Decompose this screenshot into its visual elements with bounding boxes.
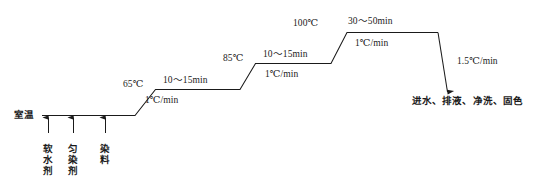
cooling-arrow [438, 33, 448, 93]
additive-label-leveling-agent: 匀染剂 [67, 143, 79, 177]
temperature-label-65: 65℃ [123, 80, 143, 90]
temperature-curve [0, 0, 538, 188]
additive-label-water-softener: 软水剂 [42, 143, 54, 177]
temperature-label-85: 85℃ [223, 54, 243, 64]
ramp-rate-label-2: 1℃/min [265, 70, 298, 80]
hold-time-label-100: 30～50min [348, 17, 393, 27]
ramp-rate-label-3: 1℃/min [355, 39, 388, 49]
process-temperature-diagram: 室温 65℃ 85℃ 100℃ 10～15min 10～15min 30～50m… [0, 0, 538, 188]
hold-time-label-85: 10～15min [263, 50, 308, 60]
cooling-rate-label: 1.5℃/min [457, 57, 498, 67]
temperature-label-100: 100℃ [293, 19, 318, 29]
ramp-rate-label-1: 1℃/min [145, 96, 178, 106]
final-step-label: 进水、排液、净洗、固色 [412, 96, 523, 106]
additive-label-dyestuff: 染料 [99, 143, 111, 165]
hold-time-label-65: 10～15min [163, 76, 208, 86]
room-temperature-label: 室温 [14, 110, 34, 120]
